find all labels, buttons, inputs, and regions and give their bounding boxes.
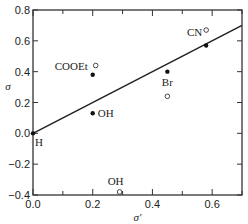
data-point-open [117,190,122,195]
data-point-filled [91,111,95,115]
data-point-open [165,94,170,99]
x-axis-label: σ′ [134,211,142,223]
y-tick-label: −0.2 [8,158,30,170]
y-tick-label: 0.0 [15,127,30,139]
data-point-filled [204,43,208,47]
point-label-br: Br [162,76,173,88]
data-point-open [93,63,98,68]
point-label-h: H [35,136,43,148]
y-tick-label: −0.4 [8,189,30,201]
x-tick-label: 0.4 [145,198,160,210]
scatter-chart: 0.00.20.40.60.80.60.40.20.0−0.2−0.4σ′σCO… [0,0,248,224]
plot-frame [33,10,242,195]
y-tick-label: 0.8 [15,4,30,16]
point-label-cooet: COOEt [55,60,88,72]
data-point-filled [165,69,169,73]
data-point-filled [91,73,95,77]
point-label-oh: OH [108,175,124,187]
data-point-open [204,28,209,33]
data-point-filled [31,131,35,135]
fit-line [33,25,242,133]
y-tick-label: 0.6 [15,35,30,47]
y-axis-label: σ [5,80,11,92]
y-tick-label: 0.4 [15,66,30,78]
y-tick-label: 0.2 [15,97,30,109]
x-tick-label: 0.2 [85,198,100,210]
point-label-cn: CN [187,26,202,38]
x-tick-label: 0.6 [204,198,219,210]
point-label-oh: OH [98,107,114,119]
